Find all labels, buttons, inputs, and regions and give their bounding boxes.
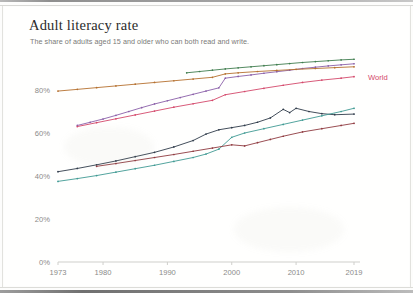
chart-marker bbox=[327, 60, 329, 62]
chart-marker bbox=[192, 140, 194, 142]
chart-marker bbox=[173, 106, 175, 108]
chart-marker bbox=[218, 129, 220, 131]
chart-marker bbox=[353, 58, 355, 60]
chart-marker bbox=[205, 133, 207, 135]
chart-marker bbox=[96, 165, 98, 167]
chart-marker bbox=[192, 150, 194, 152]
line-chart-svg: 0%20%40%60%80%197319801990200020102019Wo… bbox=[4, 7, 409, 286]
chart-marker bbox=[353, 122, 355, 124]
series-direct-label-series-world: World bbox=[368, 73, 388, 82]
chart-marker bbox=[192, 78, 194, 80]
chart-marker bbox=[237, 67, 239, 69]
chart-marker bbox=[76, 168, 78, 170]
chart-marker bbox=[315, 68, 317, 70]
chart-marker bbox=[154, 82, 156, 84]
chart-marker bbox=[167, 100, 169, 102]
chart-marker bbox=[334, 114, 336, 116]
chart-marker bbox=[57, 171, 59, 173]
chart-marker bbox=[250, 66, 252, 68]
chart-marker bbox=[76, 178, 78, 180]
chart-marker bbox=[231, 136, 233, 138]
chart-marker bbox=[173, 80, 175, 82]
chart-marker bbox=[244, 125, 246, 127]
chart-marker bbox=[134, 156, 136, 158]
x-axis-tick-label: 1980 bbox=[95, 268, 112, 277]
chart-marker bbox=[340, 59, 342, 61]
chart-marker bbox=[173, 154, 175, 156]
y-axis-tick-label: 60% bbox=[35, 129, 50, 138]
chart-marker bbox=[141, 107, 143, 109]
chart-marker bbox=[224, 73, 226, 75]
chart-marker bbox=[270, 139, 272, 141]
chart-marker bbox=[212, 76, 214, 78]
chart-line-series-world bbox=[77, 77, 354, 127]
chart-marker bbox=[231, 144, 233, 146]
chart-marker bbox=[257, 142, 259, 144]
chart-marker bbox=[231, 127, 233, 129]
chart-line-series-purple bbox=[77, 64, 354, 126]
chart-marker bbox=[192, 103, 194, 105]
x-axis-tick-label: 1990 bbox=[159, 268, 176, 277]
chart-marker bbox=[302, 131, 304, 133]
chart-marker bbox=[218, 148, 220, 150]
chart-marker bbox=[134, 114, 136, 116]
chart-marker bbox=[134, 83, 136, 85]
chart-marker bbox=[186, 72, 188, 74]
chart-card: Adult literacy rate The share of adults … bbox=[4, 7, 409, 286]
chart-marker bbox=[340, 111, 342, 113]
chart-marker bbox=[237, 76, 239, 78]
chart-marker bbox=[115, 115, 117, 117]
chart-marker bbox=[154, 103, 156, 105]
chart-marker bbox=[115, 171, 117, 173]
page-frame-right bbox=[410, 6, 411, 287]
page-frame-top-inner bbox=[0, 5, 413, 6]
chart-marker bbox=[302, 82, 304, 84]
chart-marker bbox=[276, 70, 278, 72]
chart-plot-area: 0%20%40%60%80%197319801990200020102019Wo… bbox=[4, 7, 409, 286]
chart-marker bbox=[115, 163, 117, 165]
chart-marker bbox=[340, 125, 342, 127]
chart-marker bbox=[205, 90, 207, 92]
chart-marker bbox=[257, 71, 259, 73]
chart-marker bbox=[315, 61, 317, 63]
chart-marker bbox=[334, 67, 336, 69]
chart-marker bbox=[173, 161, 175, 163]
chart-marker bbox=[224, 94, 226, 96]
chart-marker bbox=[353, 66, 355, 68]
chart-marker bbox=[295, 69, 297, 71]
chart-marker bbox=[353, 63, 355, 65]
screenshot-page: Adult literacy rate The share of adults … bbox=[0, 0, 413, 293]
chart-marker bbox=[89, 121, 91, 123]
y-axis-tick-label: 80% bbox=[35, 86, 50, 95]
chart-marker bbox=[96, 164, 98, 166]
chart-marker bbox=[244, 91, 246, 93]
chart-marker bbox=[282, 84, 284, 86]
x-axis-tick-label: 2010 bbox=[288, 268, 305, 277]
chart-marker bbox=[270, 117, 272, 119]
chart-marker bbox=[263, 65, 265, 67]
chart-marker bbox=[57, 181, 59, 183]
chart-marker bbox=[96, 87, 98, 89]
chart-marker bbox=[295, 107, 297, 109]
chart-marker bbox=[134, 168, 136, 170]
chart-marker bbox=[115, 85, 117, 87]
chart-marker bbox=[224, 77, 226, 79]
chart-marker bbox=[282, 109, 284, 111]
page-frame-left bbox=[2, 6, 3, 287]
chart-marker bbox=[289, 63, 291, 65]
chart-marker bbox=[302, 62, 304, 64]
chart-marker bbox=[224, 68, 226, 70]
chart-marker bbox=[154, 157, 156, 159]
chart-marker bbox=[134, 160, 136, 162]
chart-marker bbox=[257, 121, 259, 123]
chart-marker bbox=[282, 135, 284, 137]
page-frame-top bbox=[0, 0, 413, 2]
y-axis-tick-label: 0% bbox=[39, 258, 50, 267]
chart-marker bbox=[321, 128, 323, 130]
chart-marker bbox=[76, 89, 78, 91]
chart-marker bbox=[199, 71, 201, 73]
chart-marker bbox=[76, 126, 78, 128]
chart-marker bbox=[263, 128, 265, 130]
chart-marker bbox=[179, 97, 181, 99]
chart-marker bbox=[308, 111, 310, 113]
